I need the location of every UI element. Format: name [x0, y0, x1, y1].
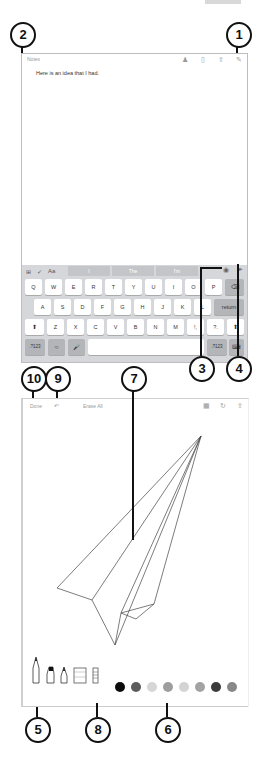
dictation-key[interactable]: 🎤 [68, 339, 85, 355]
color-swatch-2[interactable] [131, 682, 141, 692]
callout-9: 9 [45, 366, 71, 392]
shift-key-right[interactable]: ⬆ [227, 319, 244, 335]
keyboard-row-2: A S D F G H J K L return [22, 299, 247, 317]
return-key[interactable]: return [214, 299, 244, 315]
callout-3: 3 [189, 356, 215, 382]
sketch-bottom-edge [23, 706, 248, 707]
key-a[interactable]: A [34, 299, 51, 315]
callout-8: 8 [85, 717, 111, 743]
color-swatch-6[interactable] [195, 682, 205, 692]
key-j[interactable]: J [154, 299, 171, 315]
keyboard-row-4: .?123 ☺ 🎤 .?123 ⌨ [22, 339, 247, 357]
key-p[interactable]: P [205, 279, 222, 295]
key-z[interactable]: Z [47, 319, 64, 335]
callout-3-line-h [200, 267, 222, 269]
table-icon[interactable]: ⊞ [26, 268, 31, 275]
callout-5-line [36, 707, 38, 717]
callout-10: 10 [21, 366, 47, 392]
ruler-icon[interactable] [92, 666, 99, 684]
suggestion-2[interactable]: The [112, 266, 154, 276]
key-x[interactable]: X [67, 319, 84, 335]
numbers-key-left[interactable]: .?123 [25, 339, 45, 355]
suggestion-1[interactable]: I [68, 266, 110, 276]
color-swatch-5[interactable] [179, 682, 189, 692]
callout-1: 1 [226, 22, 252, 48]
color-swatch-8[interactable] [227, 682, 237, 692]
key-i[interactable]: I [165, 279, 182, 295]
key-question-period[interactable]: ?. [207, 319, 224, 335]
key-l[interactable]: L [194, 299, 211, 315]
notes-toolbar: Notes ♟ ▯ ⇧ ✎ [22, 54, 247, 68]
pen-icon[interactable] [31, 656, 41, 684]
key-h[interactable]: H [134, 299, 151, 315]
emoji-icon: ☺ [54, 344, 60, 350]
delete-key[interactable]: ⌫ [225, 279, 244, 295]
callout-4: 4 [226, 356, 252, 382]
compose-icon[interactable]: ✎ [235, 56, 243, 64]
callout-2: 2 [10, 22, 36, 48]
color-swatches [115, 682, 237, 692]
checklist-icon[interactable]: ✓ [37, 268, 42, 275]
suggestion-3[interactable]: I'm [156, 266, 198, 276]
key-k[interactable]: K [174, 299, 191, 315]
keyboard: ⊞ ✓ Aa I The I'm ◉ ✒ Q W E R T Y U I O P… [22, 265, 247, 362]
key-m[interactable]: M [167, 319, 184, 335]
key-y[interactable]: Y [125, 279, 142, 295]
key-e[interactable]: E [65, 279, 82, 295]
callout-10-line [32, 390, 34, 398]
callout-7-line [132, 390, 134, 540]
key-d[interactable]: D [74, 299, 91, 315]
note-body-text[interactable]: Here is an idea that I had. [36, 70, 99, 76]
camera-icon[interactable]: ◉ [223, 266, 229, 274]
key-u[interactable]: U [145, 279, 162, 295]
key-g[interactable]: G [114, 299, 131, 315]
callout-4-line [237, 264, 239, 356]
numbers-key-right[interactable]: .?123 [207, 339, 227, 355]
key-b[interactable]: B [127, 319, 144, 335]
callout-6: 6 [155, 717, 181, 743]
callout-6-line [166, 703, 168, 717]
top-tab-edge [205, 0, 241, 4]
eraser-icon[interactable] [73, 666, 87, 684]
callout-8-line [96, 703, 98, 717]
microphone-icon: 🎤 [73, 344, 80, 350]
shift-icon: ⬆ [32, 324, 37, 330]
key-s[interactable]: S [54, 299, 71, 315]
color-swatch-3[interactable] [147, 682, 157, 692]
drawing-tools [31, 654, 99, 684]
key-t[interactable]: T [105, 279, 122, 295]
key-c[interactable]: C [87, 319, 104, 335]
callout-5: 5 [25, 717, 51, 743]
pencil-icon[interactable] [60, 666, 68, 684]
format-icon[interactable]: Aa [48, 268, 55, 275]
callout-7: 7 [121, 366, 147, 392]
marker-icon[interactable] [46, 666, 55, 684]
color-swatch-1[interactable] [115, 682, 125, 692]
key-v[interactable]: V [107, 319, 124, 335]
key-n[interactable]: N [147, 319, 164, 335]
notes-screen-text: Notes ♟ ▯ ⇧ ✎ Here is an idea that I had… [21, 53, 248, 363]
color-swatch-7[interactable] [211, 682, 221, 692]
share-icon[interactable]: ⇧ [217, 56, 225, 64]
key-q[interactable]: Q [25, 279, 42, 295]
key-f[interactable]: F [94, 299, 111, 315]
notes-screen-sketch: Done ↶ Erase All ▦ ↻ ⇧ [21, 398, 249, 707]
keyboard-row-3: ⬆ Z X C V B N M !, ?. ⬆ [22, 319, 247, 337]
notes-back-button[interactable]: Notes [27, 56, 40, 62]
emoji-key[interactable]: ☺ [48, 339, 65, 355]
space-bar[interactable] [88, 339, 204, 355]
color-swatch-4[interactable] [163, 682, 173, 692]
key-r[interactable]: R [85, 279, 102, 295]
trash-icon[interactable]: ▯ [199, 56, 207, 64]
people-icon[interactable]: ♟ [181, 56, 189, 64]
shift-key-left[interactable]: ⬆ [25, 319, 44, 335]
key-w[interactable]: W [45, 279, 62, 295]
callout-3-line [200, 267, 202, 356]
keyboard-row-1: Q W E R T Y U I O P ⌫ [22, 279, 247, 297]
